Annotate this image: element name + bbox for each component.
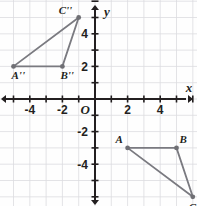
vertex-point-C <box>190 194 195 199</box>
origin-label: O <box>81 102 91 117</box>
vertex-label-Bpp: B'' <box>59 69 73 81</box>
y-tick-label-2: 2 <box>81 60 88 74</box>
x-tick-label--2: -2 <box>57 103 68 117</box>
x-tick-label-2: 2 <box>124 103 131 117</box>
y-tick-label-4: 4 <box>81 27 88 41</box>
vertex-label-C: C <box>189 201 197 206</box>
vertex-point-Cpp <box>76 15 81 20</box>
y-tick-label--2: -2 <box>77 125 88 139</box>
vertex-label-A: A <box>115 133 123 145</box>
vertex-label-B: B <box>179 133 187 145</box>
x-tick-label--4: -4 <box>24 103 35 117</box>
x-tick-label-4: 4 <box>157 103 164 117</box>
x-axis-arrow-left <box>1 95 6 103</box>
vertex-points <box>11 15 195 199</box>
vertex-label-Cpp: C'' <box>59 4 72 16</box>
vertex-label-App: A'' <box>11 69 25 81</box>
y-axis-label: y <box>102 4 110 19</box>
vertex-point-Bpp <box>60 64 65 69</box>
coordinate-plane-svg: -4-22442-2-4O A''B''C''ABC xy <box>0 0 197 206</box>
vertex-point-B <box>174 146 179 151</box>
triangles <box>14 18 193 197</box>
vertex-point-A <box>125 146 130 151</box>
y-tick-label--4: -4 <box>77 158 88 172</box>
x-axis-label: x <box>185 80 193 95</box>
coordinate-plane-figure: -4-22442-2-4O A''B''C''ABC xy <box>0 0 197 206</box>
y-axis-arrow-down <box>91 200 99 205</box>
vertex-point-App <box>11 64 16 69</box>
y-axis-arrow-up <box>91 5 99 10</box>
